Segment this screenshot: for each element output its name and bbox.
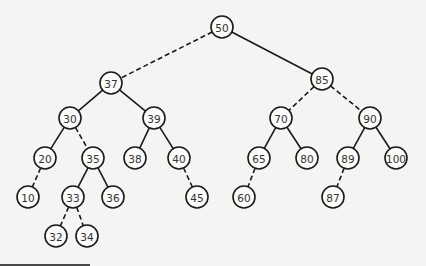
edge-70-80 — [287, 127, 301, 149]
tree-node-65: 65 — [248, 147, 270, 169]
node-label: 40 — [172, 153, 185, 165]
edge-30-35 — [75, 128, 87, 149]
node-label: 70 — [274, 113, 287, 125]
tree-node-85: 85 — [311, 68, 333, 90]
node-label: 87 — [326, 192, 339, 204]
node-label: 45 — [190, 192, 203, 204]
node-label: 50 — [215, 22, 228, 34]
edge-85-70 — [289, 87, 314, 111]
edge-89-87 — [337, 168, 344, 186]
edge-33-34 — [77, 207, 84, 225]
node-label: 36 — [106, 192, 120, 204]
tree-node-80: 80 — [296, 147, 318, 169]
node-label: 35 — [86, 153, 99, 165]
node-label: 60 — [237, 192, 250, 204]
node-label: 34 — [80, 231, 94, 243]
tree-node-40: 40 — [168, 147, 190, 169]
tree-node-36: 36 — [102, 186, 124, 208]
tree-node-35: 35 — [82, 147, 104, 169]
tree-node-90: 90 — [359, 107, 381, 129]
tree-node-37: 37 — [100, 72, 122, 94]
tree-node-20: 20 — [34, 147, 56, 169]
edge-39-38 — [140, 128, 150, 148]
tree-node-33: 33 — [62, 186, 84, 208]
edge-90-89 — [353, 128, 364, 149]
node-label: 30 — [63, 113, 76, 125]
tree-node-38: 38 — [124, 147, 146, 169]
tree-node-70: 70 — [270, 107, 292, 129]
edge-50-85 — [232, 32, 312, 74]
edge-37-39 — [120, 90, 146, 111]
tree-node-39: 39 — [143, 107, 165, 129]
tree-node-87: 87 — [322, 186, 344, 208]
node-label: 85 — [315, 74, 328, 86]
node-label: 33 — [66, 192, 79, 204]
edge-50-37 — [121, 32, 212, 78]
edge-85-90 — [331, 86, 362, 111]
node-label: 20 — [38, 153, 51, 165]
edge-30-20 — [51, 127, 64, 148]
tree-node-100: 100 — [385, 147, 407, 169]
node-label: 90 — [363, 113, 376, 125]
node-label: 65 — [252, 153, 265, 165]
edge-70-65 — [264, 128, 275, 149]
tree-diagram: 5037853039709020353840658089100103336456… — [0, 0, 426, 266]
tree-node-30: 30 — [59, 107, 81, 129]
tree-node-32: 32 — [45, 225, 67, 247]
edge-33-32 — [60, 207, 68, 226]
edge-40-45 — [184, 168, 193, 187]
edge-35-36 — [98, 168, 108, 187]
edge-35-33 — [78, 168, 88, 187]
node-label: 10 — [21, 192, 34, 204]
edge-20-10 — [32, 168, 40, 187]
node-label: 80 — [300, 153, 313, 165]
tree-node-34: 34 — [76, 225, 98, 247]
node-label: 89 — [341, 153, 354, 165]
edge-65-60 — [248, 168, 255, 186]
node-label: 38 — [128, 153, 141, 165]
edge-39-40 — [160, 127, 173, 148]
tree-node-60: 60 — [233, 186, 255, 208]
tree-node-89: 89 — [337, 147, 359, 169]
tree-node-50: 50 — [211, 16, 233, 38]
tree-node-45: 45 — [186, 186, 208, 208]
tree-nodes: 5037853039709020353840658089100103336456… — [17, 16, 407, 247]
edge-37-30 — [78, 90, 102, 111]
node-label: 39 — [147, 113, 160, 125]
node-label: 32 — [49, 231, 62, 243]
node-label: 37 — [104, 78, 117, 90]
node-label: 100 — [386, 153, 406, 165]
edge-90-100 — [376, 127, 390, 149]
tree-node-10: 10 — [17, 186, 39, 208]
